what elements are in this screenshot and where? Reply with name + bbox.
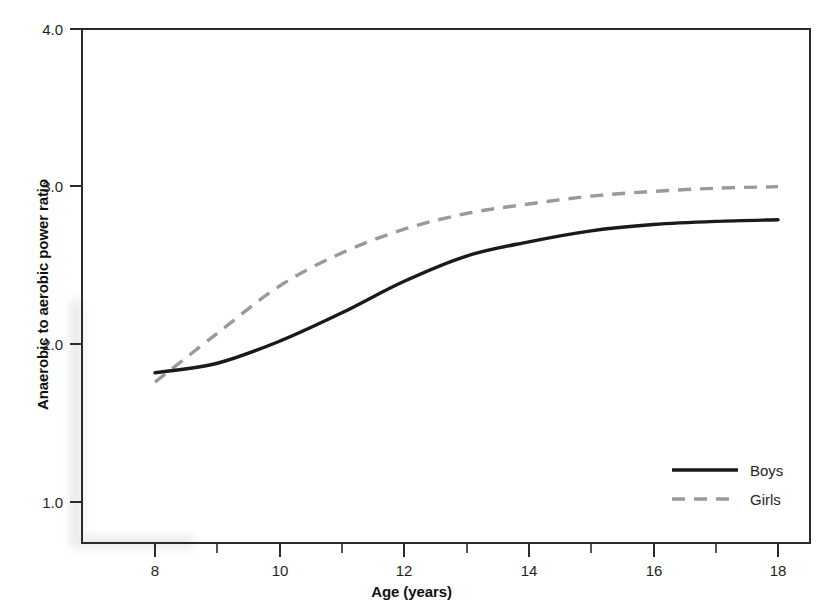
plot-canvas: 4.0 3.0 2.0 1.0 8 10 12 14 [0, 0, 823, 616]
x-axis-minor-ticks [217, 543, 716, 553]
legend-label-girls: Girls [750, 491, 781, 508]
x-axis-title: Age (years) [0, 583, 823, 600]
y-tick-label: 1.0 [42, 494, 63, 511]
plot-frame [82, 29, 810, 543]
x-tick-label: 8 [151, 562, 159, 579]
data-series-group [155, 187, 778, 383]
scan-shadow-artifact [70, 300, 194, 548]
x-tick-label: 10 [272, 562, 289, 579]
legend-label-boys: Boys [750, 462, 783, 479]
legend: Boys Girls [672, 462, 783, 508]
y-axis-title: Anaerobic to aerobic power ratio [34, 165, 51, 425]
x-tick-label: 16 [646, 562, 663, 579]
x-tick-label: 14 [521, 562, 538, 579]
x-tick-label: 18 [770, 562, 787, 579]
chart-figure: 4.0 3.0 2.0 1.0 8 10 12 14 [0, 0, 823, 616]
x-axis-tick-labels: 8 10 12 14 16 18 [151, 562, 787, 579]
x-tick-label: 12 [396, 562, 413, 579]
y-tick-label: 4.0 [42, 21, 63, 38]
series-line-boys [155, 220, 778, 373]
